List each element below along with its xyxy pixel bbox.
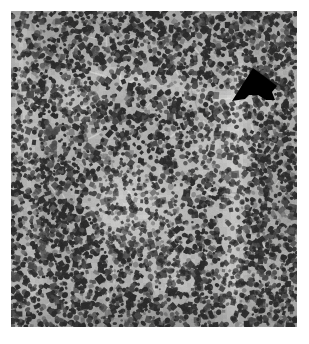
micrograph-image [11, 11, 297, 327]
micrograph-canvas [11, 11, 297, 327]
figure-root [0, 0, 309, 344]
